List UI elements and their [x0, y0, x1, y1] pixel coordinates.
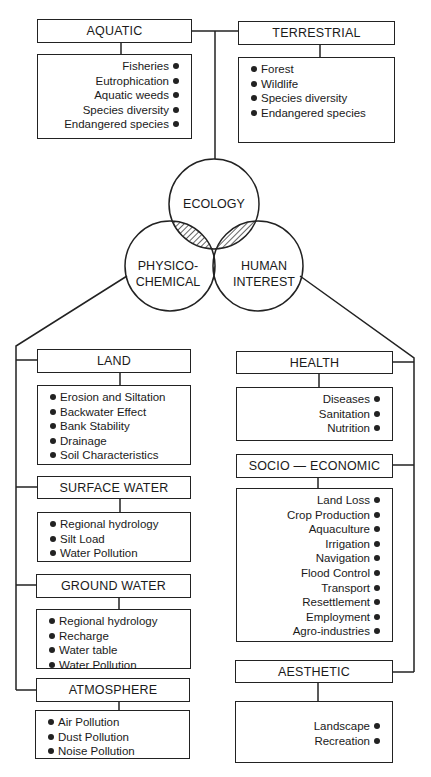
list-item: Species diversity: [247, 91, 386, 106]
surface-water-header: SURFACE WATER: [37, 476, 191, 499]
bullet-icon: [374, 396, 380, 402]
list-item-label: Drainage: [60, 435, 107, 447]
bullet-icon: [50, 452, 56, 458]
human-interest-label: HUMAN INTEREST: [228, 258, 300, 290]
list-item: Land Loss: [245, 493, 384, 508]
list-item: Flood Control: [245, 566, 384, 581]
list-item: Resettlement: [245, 595, 384, 610]
health-list: DiseasesSanitationNutrition: [236, 387, 393, 441]
bullet-icon: [374, 570, 380, 576]
bullet-icon: [251, 81, 257, 87]
list-item: Wildlife: [247, 77, 386, 92]
list-item: Silt Load: [46, 532, 182, 547]
bullet-icon: [374, 723, 380, 729]
list-item: Water Pollution: [46, 546, 182, 561]
list-item: Nutrition: [245, 421, 384, 436]
list-item-label: Endangered species: [64, 118, 169, 130]
list-item: Species diversity: [46, 103, 183, 118]
bullet-icon: [49, 647, 55, 653]
list-item-label: Recreation: [314, 735, 370, 747]
health-header: HEALTH: [236, 351, 393, 374]
bullet-icon: [251, 110, 257, 116]
bullet-icon: [173, 78, 179, 84]
list-item: Regional hydrology: [45, 614, 182, 629]
list-item-label: Resettlement: [302, 596, 370, 608]
socio-economic-header: SOCIO — ECONOMIC: [236, 454, 393, 478]
list-item: Transport: [245, 581, 384, 596]
list-item-label: Flood Control: [301, 567, 370, 579]
list-item: Backwater Effect: [46, 405, 182, 420]
list-item-label: Erosion and Siltation: [60, 391, 165, 403]
list-item-label: Transport: [321, 582, 370, 594]
list-item-label: Species diversity: [83, 104, 169, 116]
list-item: Crop Production: [245, 508, 384, 523]
bullet-icon: [374, 628, 380, 634]
land-list: Erosion and SiltationBackwater EffectBan…: [37, 385, 191, 465]
bullet-icon: [374, 526, 380, 532]
bullet-icon: [48, 748, 54, 754]
list-item: Drainage: [46, 434, 182, 449]
list-item-label: Agro-industries: [293, 625, 370, 637]
list-item-label: Water table: [59, 644, 117, 656]
bullet-icon: [374, 497, 380, 503]
bullet-icon: [50, 394, 56, 400]
surface-water-list: Regional hydrologySilt LoadWater Polluti…: [37, 512, 191, 562]
list-item-label: Forest: [261, 63, 294, 75]
list-item-label: Aquaculture: [309, 523, 370, 535]
bullet-icon: [50, 521, 56, 527]
atmosphere-list: Air PollutionDust PollutionNoise Polluti…: [35, 710, 190, 759]
bullet-icon: [374, 585, 380, 591]
bullet-icon: [49, 662, 55, 668]
bullet-icon: [173, 63, 179, 69]
list-item-label: Species diversity: [261, 92, 347, 104]
list-item-label: Soil Characteristics: [60, 449, 158, 461]
physico-chemical-label: PHYSICO- CHEMICAL: [133, 258, 203, 290]
bullet-icon: [251, 95, 257, 101]
list-item: Regional hydrology: [46, 517, 182, 532]
list-item-label: Noise Pollution: [58, 745, 135, 757]
terrestrial-list: ForestWildlifeSpecies diversityEndangere…: [238, 57, 395, 143]
bullet-icon: [50, 536, 56, 542]
list-item-label: Endangered species: [261, 107, 366, 119]
aesthetic-header: AESTHETIC: [235, 660, 393, 683]
list-item-label: Navigation: [316, 552, 370, 564]
list-item: Eutrophication: [46, 74, 183, 89]
bullet-icon: [374, 614, 380, 620]
list-item: Forest: [247, 62, 386, 77]
list-item: Water Pollution: [45, 658, 182, 673]
list-item-label: Bank Stability: [60, 420, 130, 432]
list-item: Navigation: [245, 551, 384, 566]
bullet-icon: [48, 719, 54, 725]
list-item: Aquaculture: [245, 522, 384, 537]
bullet-icon: [374, 541, 380, 547]
list-item: Diseases: [245, 392, 384, 407]
list-item-label: Air Pollution: [58, 716, 119, 728]
list-item: Aquatic weeds: [46, 88, 183, 103]
list-item-label: Wildlife: [261, 78, 298, 90]
bullet-icon: [173, 107, 179, 113]
aquatic-header: AQUATIC: [37, 19, 192, 43]
bullet-icon: [49, 633, 55, 639]
list-item-label: Recharge: [59, 630, 109, 642]
bullet-icon: [374, 738, 380, 744]
list-item-label: Regional hydrology: [60, 518, 158, 530]
list-item: Soil Characteristics: [46, 448, 182, 463]
bullet-icon: [374, 512, 380, 518]
bullet-icon: [48, 734, 54, 740]
list-item: Fisheries: [46, 59, 183, 74]
list-item: Irrigation: [245, 537, 384, 552]
list-item: Recharge: [45, 629, 182, 644]
list-item: Bank Stability: [46, 419, 182, 434]
bullet-icon: [374, 599, 380, 605]
bullet-icon: [173, 121, 179, 127]
list-item-label: Sanitation: [319, 408, 370, 420]
list-item: Endangered species: [247, 106, 386, 121]
bullet-icon: [49, 618, 55, 624]
ground-water-list: Regional hydrologyRechargeWater tableWat…: [36, 609, 191, 669]
list-item-label: Backwater Effect: [60, 406, 146, 418]
list-item: Endangered species: [46, 117, 183, 132]
list-item-label: Fisheries: [122, 60, 169, 72]
list-item: Recreation: [244, 734, 384, 749]
bullet-icon: [374, 411, 380, 417]
aesthetic-list: LandscapeRecreation: [235, 701, 393, 763]
